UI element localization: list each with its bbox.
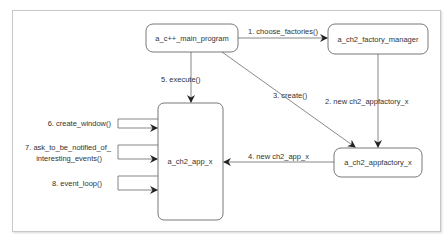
node-app[interactable]: a_ch2_app_x <box>158 103 223 220</box>
node-factory-manager-label: a_ch2_factory_manager <box>338 35 419 44</box>
node-appfactory-label: a_ch2_appfactory_x <box>344 158 412 167</box>
edge-ask-to-be-notified: 7. ask_to_be_notified_of_ interesting_ev… <box>25 143 158 163</box>
node-appfactory[interactable]: a_ch2_appfactory_x <box>334 148 422 177</box>
node-main-program[interactable]: a_c++_main_program <box>146 24 238 52</box>
edge-event-loop-label: 8. event_loop() <box>52 179 103 188</box>
edge-new-appfactory-label: 2. new ch2_appfactory_x <box>325 97 409 106</box>
edge-ask-to-be-notified-label-line1: 7. ask_to_be_notified_of_ <box>25 143 112 152</box>
edge-event-loop: 8. event_loop() <box>52 176 158 190</box>
node-app-label: a_ch2_app_x <box>167 157 212 166</box>
edge-ask-to-be-notified-label-line2: interesting_events() <box>36 154 102 163</box>
edge-create-label: 3. create() <box>273 91 308 100</box>
edge-new-app-label: 4. new ch2_app_x <box>248 152 309 161</box>
edge-choose-factories: 1. choose_factories() <box>238 27 327 38</box>
edge-create-window-label: 6. create_window() <box>48 119 112 128</box>
edge-execute: 5. execute() <box>161 52 201 102</box>
edge-execute-label: 5. execute() <box>161 75 201 84</box>
edge-new-appfactory: 2. new ch2_appfactory_x <box>325 54 409 147</box>
collaboration-diagram: a_c++_main_program a_ch2_factory_manager… <box>0 0 447 241</box>
node-factory-manager[interactable]: a_ch2_factory_manager <box>328 24 428 54</box>
edge-new-app: 4. new ch2_app_x <box>224 152 334 162</box>
edge-choose-factories-label: 1. choose_factories() <box>248 27 319 36</box>
node-main-program-label: a_c++_main_program <box>155 34 228 43</box>
edge-create-window: 6. create_window() <box>48 119 158 128</box>
